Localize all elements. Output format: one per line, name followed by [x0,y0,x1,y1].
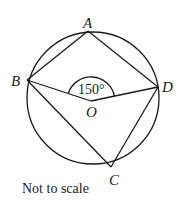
label-c: C [109,172,120,188]
label-b: B [11,73,20,89]
segment-ab [27,31,88,80]
label-o: O [86,104,97,120]
label-d: D [161,79,173,95]
label-a: A [82,15,93,31]
circle [27,32,159,164]
geometry-diagram: A B D O C 150° Not to scale [0,0,185,206]
angle-label: 150° [78,82,105,97]
not-to-scale-note: Not to scale [22,181,89,196]
segment-cd [111,87,158,167]
